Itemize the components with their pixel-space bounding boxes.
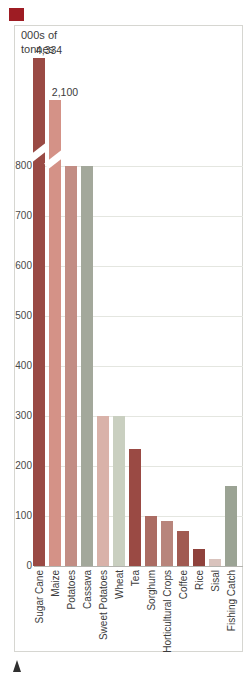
y-tick-label: 200 bbox=[15, 460, 32, 472]
bar-value-label: 2,100 bbox=[52, 86, 78, 98]
x-tick-label: Potatoes bbox=[66, 570, 77, 609]
x-tick-label: Fishing Catch bbox=[226, 570, 237, 631]
y-tick-label: 0 bbox=[15, 560, 32, 572]
y-tick-label: 300 bbox=[15, 410, 32, 422]
x-tick-label: Sisal bbox=[210, 570, 221, 592]
plot-area: 01002003004005006007008004,334Sugar Cane… bbox=[15, 26, 242, 651]
x-tick-label: Horticultural Crops bbox=[162, 570, 173, 653]
bar bbox=[49, 100, 61, 566]
bar bbox=[113, 416, 125, 566]
x-tick-label: Maize bbox=[50, 570, 61, 597]
x-tick-label: Cassava bbox=[82, 570, 93, 609]
bar bbox=[33, 58, 45, 566]
x-tick-label: Rice bbox=[194, 570, 205, 590]
bar bbox=[161, 521, 173, 566]
bar bbox=[65, 166, 77, 566]
bar-value-label: 4,334 bbox=[36, 44, 62, 56]
y-tick-label: 600 bbox=[15, 260, 32, 272]
bar bbox=[177, 531, 189, 566]
bar bbox=[145, 516, 157, 566]
y-tick-label: 400 bbox=[15, 360, 32, 372]
chart-panel: 000s of tonnes 0100200300400500600700800… bbox=[14, 25, 243, 652]
bar bbox=[193, 549, 205, 567]
bar bbox=[225, 486, 237, 566]
x-tick-label: Tea bbox=[130, 570, 141, 586]
x-tick-label: Sugar Cane bbox=[34, 570, 45, 623]
caption-arrow-icon bbox=[13, 660, 21, 672]
y-tick-label: 700 bbox=[15, 210, 32, 222]
y-tick-label: 800 bbox=[15, 160, 32, 172]
x-tick-label: Coffee bbox=[178, 570, 189, 599]
bar bbox=[97, 416, 109, 566]
x-tick-label: Sweet Potatoes bbox=[98, 570, 109, 640]
y-tick-label: 500 bbox=[15, 310, 32, 322]
page-accent-square bbox=[9, 8, 24, 21]
x-tick-label: Wheat bbox=[114, 570, 125, 599]
x-tick-label: Sorghum bbox=[146, 570, 157, 611]
bar bbox=[209, 559, 221, 567]
bar bbox=[129, 449, 141, 567]
y-tick-label: 100 bbox=[15, 510, 32, 522]
x-axis-line bbox=[34, 566, 243, 567]
bar bbox=[81, 166, 93, 566]
